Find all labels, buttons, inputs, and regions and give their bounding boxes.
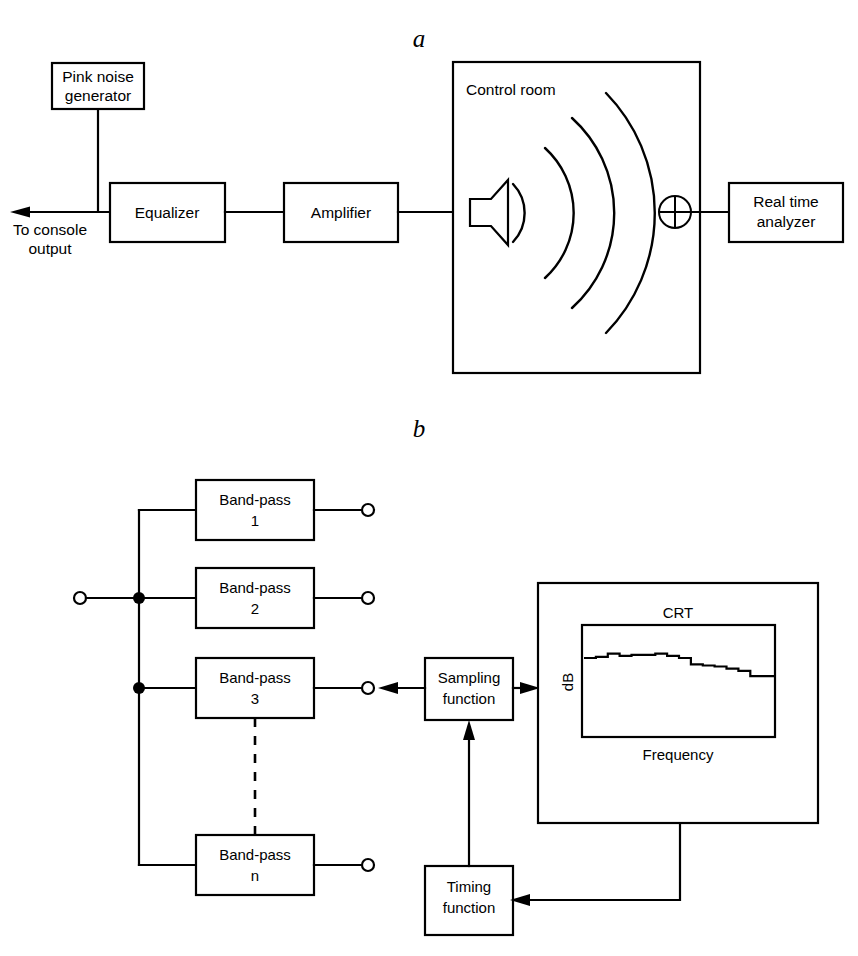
bandpass-filter-n-number: n xyxy=(251,867,259,884)
sampling-function-box[interactable] xyxy=(425,658,513,720)
output-terminal-1[interactable] xyxy=(362,504,374,516)
real-time-analyzer-label-line1: Real time xyxy=(753,193,818,210)
output-terminal-2[interactable] xyxy=(362,592,374,604)
to-console-output-label-line1: To console xyxy=(13,221,87,238)
bandpass-filter-2-label: Band-pass xyxy=(219,579,291,596)
control-room-box xyxy=(453,62,700,373)
bandpass-filter-n-box[interactable] xyxy=(196,835,314,895)
crt-x-axis-label: Frequency xyxy=(643,746,714,763)
wire-display-to-timing xyxy=(527,823,680,900)
arrow-left-icon xyxy=(10,207,30,218)
output-terminal-3[interactable] xyxy=(362,682,374,694)
bandpass-filter-3-box[interactable] xyxy=(196,658,314,718)
bandpass-filter-n-label: Band-pass xyxy=(219,846,291,863)
real-time-analyzer-label-line2: analyzer xyxy=(757,213,816,230)
figure-canvas: a Pink noise generator To console output… xyxy=(0,0,858,956)
timing-function-label-line2: function xyxy=(443,899,496,916)
input-terminal[interactable] xyxy=(74,592,86,604)
arrow-left-sampling-icon xyxy=(378,682,398,694)
panel-b-label: b xyxy=(413,415,426,442)
crt-y-axis-label: dB xyxy=(559,673,576,691)
bandpass-filter-1-box[interactable] xyxy=(196,480,314,540)
diagram-svg: a Pink noise generator To console output… xyxy=(0,0,858,956)
bandpass-filter-1-label: Band-pass xyxy=(219,491,291,508)
panel-a-label: a xyxy=(413,25,426,52)
junction-dot-2 xyxy=(133,592,145,604)
bandpass-filter-1-number: 1 xyxy=(251,512,259,529)
bandpass-filter-3-number: 3 xyxy=(251,690,259,707)
junction-dot-3 xyxy=(133,682,145,694)
bandpass-filter-2-number: 2 xyxy=(251,600,259,617)
pink-noise-generator-label-line1: Pink noise xyxy=(62,68,134,85)
crt-title-label: CRT xyxy=(663,604,694,621)
sampling-function-label-line1: Sampling xyxy=(438,669,501,686)
control-room-label: Control room xyxy=(466,81,556,98)
output-terminal-n[interactable] xyxy=(362,859,374,871)
amplifier-label: Amplifier xyxy=(311,204,371,221)
bandpass-filter-3-label: Band-pass xyxy=(219,669,291,686)
to-console-output-label-line2: output xyxy=(28,240,72,257)
equalizer-label: Equalizer xyxy=(135,204,200,221)
sampling-function-label-line2: function xyxy=(443,690,496,707)
timing-function-label-line1: Timing xyxy=(447,878,491,895)
arrow-up-timing-icon xyxy=(463,720,475,740)
pink-noise-generator-label-line2: generator xyxy=(65,87,131,104)
crt-screen xyxy=(582,625,775,737)
bandpass-filter-2-box[interactable] xyxy=(196,568,314,628)
wire-noise-to-equalizer xyxy=(98,109,110,212)
